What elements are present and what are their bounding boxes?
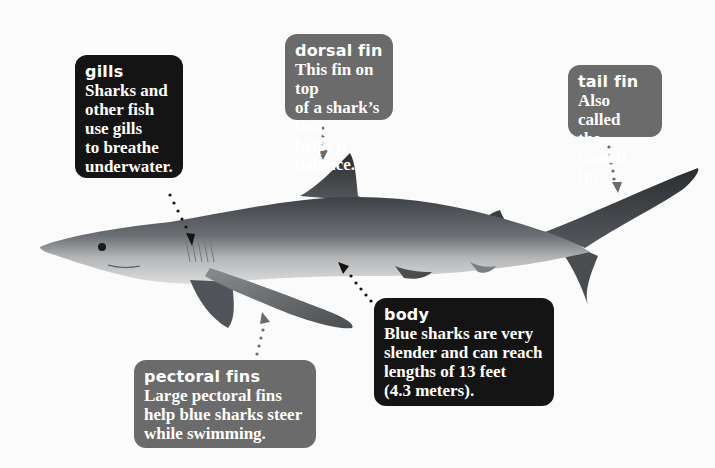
label-gills: gills Sharks and other fish use gills to… xyxy=(75,55,183,178)
label-desc-line: help blue sharks steer xyxy=(144,405,306,424)
label-title: tail fin xyxy=(578,73,652,91)
shark-body-shape xyxy=(40,197,590,284)
label-title: pectoral fins xyxy=(144,368,306,386)
label-desc-line: Blue sharks are very xyxy=(384,324,544,343)
label-desc-line: the caudal fin. xyxy=(578,129,652,186)
label-pectoral-fins: pectoral fins Large pectoral fins help b… xyxy=(134,360,316,448)
eye-shape xyxy=(98,243,106,251)
label-body: body Blue sharks are very slender and ca… xyxy=(374,298,554,406)
label-desc-line: Large pectoral fins xyxy=(144,386,306,405)
label-desc-line: (4.3 meters). xyxy=(384,381,544,400)
label-desc-line: other fish xyxy=(85,100,173,119)
label-desc-line: Sharks and xyxy=(85,81,173,100)
label-tail-fin: tail fin Also called the caudal fin. xyxy=(568,65,662,137)
label-desc-line: use gills xyxy=(85,119,173,138)
label-desc-line: while swimming. xyxy=(144,424,306,443)
label-desc-line: slender and can reach xyxy=(384,343,544,362)
label-desc-line: lengths of 13 feet xyxy=(384,362,544,381)
label-desc-line: Also called xyxy=(578,91,652,129)
label-desc-line: of a shark’s body xyxy=(295,98,383,136)
label-desc-line: helps it balance. xyxy=(295,136,383,174)
label-title: body xyxy=(384,306,544,324)
label-dorsal-fin: dorsal fin This fin on top of a shark’s … xyxy=(285,34,393,120)
label-title: gills xyxy=(85,63,173,81)
label-title: dorsal fin xyxy=(295,42,383,60)
label-desc-line: This fin on top xyxy=(295,60,383,98)
label-desc-line: to breathe xyxy=(85,138,173,157)
label-desc-line: underwater. xyxy=(85,157,173,176)
diagram-stage: gills Sharks and other fish use gills to… xyxy=(0,0,715,468)
